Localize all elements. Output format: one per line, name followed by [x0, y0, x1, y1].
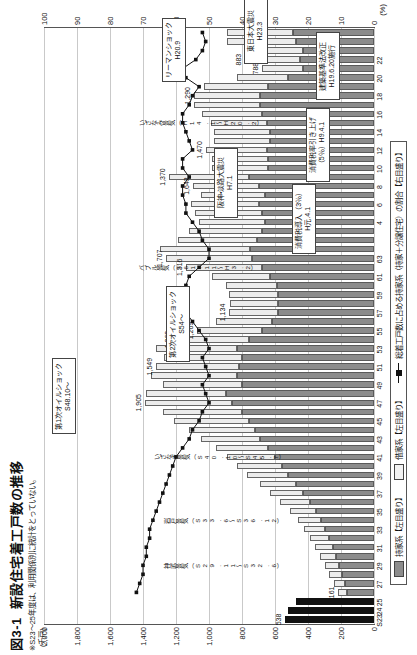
callout-line-2: H19.6.20施行: [328, 36, 337, 96]
bar-segment-rent: [304, 526, 325, 533]
izanami-boom: いざなみ景気（H14.1～H20.2）: [139, 121, 263, 128]
bar-segment-rent: [212, 273, 270, 280]
chart-legend: 持家系【左目盛り】 借家系【左目盛り】 総着工戸数に占める持家系（持家＋分譲住宅…: [390, 141, 407, 585]
line-marker-icon: [395, 363, 403, 383]
bar-segment-rent: [280, 499, 310, 506]
callout-lehman-shock: リーマンショックH20.9: [162, 18, 186, 82]
left-axis-tick: 1,400: [139, 627, 148, 646]
bar-segment-rent: [247, 472, 288, 479]
right-axis-unit: (%): [378, 4, 387, 16]
iwato-boom: 岩戸景気（S33.6～S36.12）: [164, 518, 283, 525]
bar-segment-owner: [275, 454, 374, 461]
bar-segment-rent: [229, 291, 279, 298]
figure-title-text: 新設住宅着工戸数の推移: [9, 461, 24, 610]
callout-line-2: H元.4.1: [304, 188, 313, 250]
x-axis-tick: 49: [376, 382, 383, 390]
bar-segment-rent: [334, 580, 346, 587]
bar-segment-rent: [329, 571, 342, 578]
bar-segment-rent: [315, 544, 333, 551]
bar-segment-owner: [321, 517, 374, 524]
bar-segment-rent: [199, 219, 265, 226]
bar-segment-rent: [260, 481, 296, 488]
x-axis-tick: 45: [376, 418, 383, 426]
bar-segment-rent: [202, 111, 261, 118]
x-axis-tick: 12: [376, 147, 383, 155]
bar-segment-owner: [333, 544, 374, 551]
callout-consumption-tax-intro: 消費税導入（3％）H元.4.1: [292, 184, 316, 254]
x-axis-tick: S23: [376, 614, 383, 626]
callout-line-1: リーマンショック: [165, 22, 174, 78]
bar-segment-owner: [277, 282, 374, 289]
left-axis-tick: 1,600: [106, 627, 115, 646]
bar-segment-owner: [242, 354, 374, 361]
callout-line-1: 第1次オイルショック: [55, 362, 64, 430]
bar-segment-rent: [230, 300, 278, 307]
x-axis-tick: 25: [376, 599, 383, 607]
bar-segment-owner: [232, 400, 374, 407]
plot-area: 00200104002060030800401,000501,200601,40…: [44, 27, 375, 625]
x-axis-tick: 27: [376, 580, 383, 588]
bar-segment-owner: [329, 535, 374, 542]
callout-line-2: （5％）H9.4.1: [318, 112, 327, 178]
bar-segment-rent: [156, 363, 239, 370]
bar-segment-total: [288, 607, 374, 614]
bar-segment-owner: [278, 309, 374, 316]
izanagi-boom: いざなぎ景気（S40.10～S45.7）: [154, 455, 285, 462]
bar-segment-rent: [216, 445, 269, 452]
value-label: 538: [275, 614, 282, 626]
bar-segment-rent: [163, 381, 242, 388]
left-axis-tick: 1,000: [205, 627, 214, 646]
bar-segment-owner: [325, 526, 374, 533]
right-axis-tick: 20: [304, 17, 313, 25]
x-axis-tick: 57: [376, 310, 383, 318]
bar-segment-owner: [339, 562, 374, 569]
bar-segment-owner: [265, 192, 374, 199]
bar-segment-owner: [242, 381, 374, 388]
bar-segment-owner: [252, 255, 374, 262]
legend-label-owner: 持家系【左目盛り】: [393, 494, 404, 557]
legend-item-ratio: 総着工戸数に占める持家系（持家＋分譲住宅）の割合【右目盛り】: [393, 149, 404, 383]
x-axis-tick: 53: [376, 346, 383, 354]
bar-segment-owner: [259, 183, 375, 190]
x-axis-tick: 47: [376, 400, 383, 408]
left-axis-tick: 0: [370, 627, 379, 631]
bar-segment-rent: [189, 427, 255, 434]
right-axis-tick: 30: [271, 17, 280, 25]
x-axis-tick: 63: [376, 255, 383, 263]
right-axis-tick: 10: [337, 17, 346, 25]
bar-segment-owner: [278, 300, 374, 307]
x-axis-tick: 29: [376, 562, 383, 570]
x-axis-tick: 35: [376, 508, 383, 516]
legend-label-ratio: 総着工戸数に占める持家系（持家＋分譲住宅）の割合【右目盛り】: [393, 149, 404, 359]
bar-segment-owner: [262, 264, 374, 271]
callout-line-1: 消費税導入（3％）: [295, 188, 304, 250]
value-label: 1,134: [219, 304, 226, 322]
bar-segment-rent: [320, 553, 337, 560]
bar-segment-rent: [226, 282, 277, 289]
bar-segment-owner: [242, 409, 374, 416]
value-label: 1,290: [184, 87, 191, 105]
bar-segment-rent: [229, 309, 279, 316]
x-axis-tick: 16: [376, 111, 383, 119]
bar-segment-owner: [268, 445, 374, 452]
callout-line-2: S48.10～: [64, 362, 73, 430]
x-axis-tick: 14: [376, 129, 383, 137]
value-label: 1,470: [196, 141, 203, 159]
bar-segment-owner: [262, 327, 374, 334]
bar-segment-owner: [237, 345, 374, 352]
figure-note: ※S23～25年度は、利用関係別に統計をとっていない。: [26, 476, 37, 651]
x-axis-tick: 61: [376, 273, 383, 281]
x-axis-tick: 22: [376, 57, 383, 65]
bar-segment-rent: [178, 237, 257, 244]
bar-segment-rent: [160, 246, 251, 253]
bar-segment-owner: [288, 472, 374, 479]
bar-segment-owner: [345, 580, 374, 587]
x-axis-tick: 8: [376, 185, 383, 189]
bar-segment-rent: [298, 517, 321, 524]
value-label: 161: [328, 587, 335, 599]
left-axis-tick: 1,200: [172, 627, 181, 646]
left-axis-tick: 600: [271, 627, 280, 640]
value-label: 1,643: [183, 177, 190, 195]
callout-first-oil-shock: 第1次オイルショックS48.10～: [52, 358, 76, 434]
x-axis-tick: 41: [376, 454, 383, 462]
